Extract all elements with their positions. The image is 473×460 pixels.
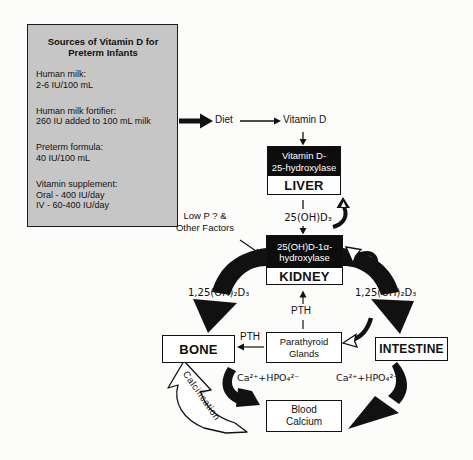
pth-horizontal-label: PTH	[240, 331, 260, 343]
liver-box: Vitamin D- 25-hydroxylase LIVER	[267, 146, 341, 195]
vitamin-d-label: Vitamin D	[283, 114, 326, 126]
source-item-human-milk: Human milk: 2-6 IU/100 mL	[36, 69, 170, 91]
liver-label: LIVER	[268, 176, 340, 194]
kidney-box: 25(OH)D-1α- hydroxylase KIDNEY	[266, 235, 343, 285]
source-item-supplement: Vitamin supplement: Oral - 400 IU/day IV…	[36, 179, 170, 211]
sources-to-diet-arrow	[179, 114, 213, 129]
source-item-preterm-formula: Preterm formula: 40 IU/100 mL	[36, 142, 170, 164]
25ohd3-recycle-arrow	[333, 197, 350, 227]
ca-phosphate-left-label: Ca²⁺+HPO₄²⁻	[237, 372, 299, 384]
vitamin-d-metabolism-diagram: Sources of Vitamin D for Preterm Infants…	[0, 0, 473, 460]
pth-vertical-label: PTH	[291, 305, 311, 317]
pth-to-bone-arrow	[237, 344, 264, 351]
diet-to-vitamin-d-arrow	[240, 118, 281, 125]
diet-label: Diet	[215, 114, 233, 126]
feedback-to-parathyroid-arrow	[343, 318, 371, 347]
vitamin-d-to-liver-arrow	[300, 132, 307, 146]
metabolite-125-left-label: 1,25(OH)₂D₃	[188, 287, 249, 299]
25ohd3-to-kidney-arrow	[300, 226, 307, 235]
sources-panel-title: Sources of Vitamin D for Preterm Infants	[36, 36, 170, 58]
low-p-other-factors-label: Low P ? & Other Factors	[168, 210, 242, 233]
sources-panel: Sources of Vitamin D for Preterm Infants…	[27, 24, 178, 227]
ca-phosphate-right-label: Ca²⁺+HPO₄²⁻	[336, 372, 398, 384]
source-item-fortifier: Human milk fortifier: 260 IU added to 10…	[36, 106, 170, 128]
intestine-box: INTESTINE	[375, 337, 448, 361]
metabolite-25ohd3-label: 25(OH)D₃	[284, 212, 332, 224]
metabolite-125-right-label: 1,25(OH)₂D₃	[355, 287, 416, 299]
liver-enzyme-label: Vitamin D- 25-hydroxylase	[268, 147, 340, 176]
parathyroid-box: Parathyroid Glands	[266, 332, 342, 363]
blood-calcium-box: Blood Calcium	[266, 400, 342, 432]
bone-box: BONE	[162, 335, 235, 363]
kidney-enzyme-label: 25(OH)D-1α- hydroxylase	[267, 236, 342, 268]
kidney-label: KIDNEY	[267, 268, 342, 284]
